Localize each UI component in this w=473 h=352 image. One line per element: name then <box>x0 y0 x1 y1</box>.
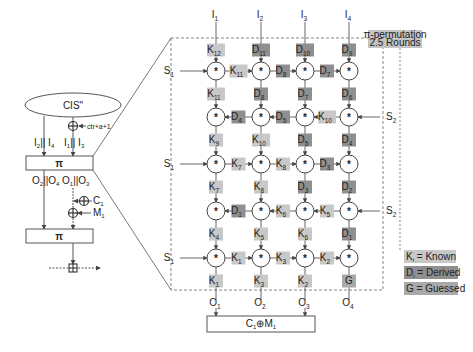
top-input-i1: I1 <box>212 9 219 22</box>
key-label-horizontal: K7 <box>231 158 245 171</box>
key-label-vertical: G <box>342 275 356 288</box>
star-operator-node: * <box>252 202 270 220</box>
svg-text:*: * <box>347 112 351 123</box>
star-operator-node: * <box>207 62 225 80</box>
key-label-vertical: D1 <box>342 228 356 241</box>
svg-text:*: * <box>259 159 263 170</box>
svg-text:*: * <box>214 253 218 264</box>
key-label-horizontal: D5 <box>276 111 290 124</box>
star-operator-node: * <box>296 155 314 173</box>
svg-text:*: * <box>303 66 307 77</box>
xor-ctr-icon <box>69 122 78 131</box>
key-label-vertical: K10 <box>252 134 270 147</box>
svg-text:*: * <box>347 206 351 217</box>
star-operator-node: * <box>296 62 314 80</box>
key-label-vertical: D10 <box>296 44 314 57</box>
key-label-vertical: D11 <box>252 44 270 57</box>
key-label-horizontal: D4 <box>231 111 245 124</box>
legend: Ki = KnownDi = DerivedG = Guessed <box>404 250 465 295</box>
key-label-vertical: K11 <box>207 88 225 101</box>
key-label-horizontal: K1 <box>231 252 245 265</box>
svg-text:*: * <box>259 66 263 77</box>
top-input-i2: I2 <box>257 9 264 22</box>
key-label-vertical: D9 <box>342 44 356 57</box>
svg-text:*: * <box>303 206 307 217</box>
key-label-vertical: D3 <box>298 181 312 194</box>
key-label-vertical: D5 <box>298 134 312 147</box>
legend-item-derived: Di = Derived <box>404 266 460 279</box>
key-label-vertical: K2 <box>298 275 312 288</box>
side-input-s1: S1 <box>164 252 175 265</box>
svg-text:π: π <box>55 158 63 169</box>
svg-text:*: * <box>214 159 218 170</box>
legend-item-guessed: G = Guessed <box>404 282 465 295</box>
key-label-horizontal: K3 <box>276 252 290 265</box>
key-label-horizontal: K5 <box>320 205 334 218</box>
key-label-horizontal: D7 <box>320 65 334 78</box>
output-box: C1⊕M1 <box>207 316 315 332</box>
zoom-line-bottom <box>93 170 171 290</box>
xor-m1-icon <box>69 209 78 218</box>
key-label-vertical: K9 <box>209 134 223 147</box>
bottom-output-o3: O3 <box>298 297 310 310</box>
svg-text:*: * <box>347 66 351 77</box>
star-operator-node: * <box>207 155 225 173</box>
svg-text:*: * <box>259 206 263 217</box>
output-o2-o4: O2||O4 <box>32 175 60 187</box>
bottom-output-o1: O1 <box>209 297 221 310</box>
svg-text:*: * <box>347 159 351 170</box>
key-label-horizontal: K11 <box>230 65 248 78</box>
svg-text:Di = Derived: Di = Derived <box>406 267 460 279</box>
svg-text:*: * <box>259 112 263 123</box>
m1-label: M1 <box>93 207 105 219</box>
key-label-vertical: D7 <box>298 88 312 101</box>
key-label-vertical: K3 <box>254 275 268 288</box>
key-label-vertical: K1 <box>209 275 223 288</box>
key-label-horizontal: D3 <box>320 158 334 171</box>
xor-c1-icon <box>80 197 89 206</box>
key-label-vertical: D4 <box>342 134 356 147</box>
svg-text:G = Guessed: G = Guessed <box>406 283 465 294</box>
svg-text:G: G <box>345 275 353 286</box>
input-i2-i4: I2|| I4 <box>34 137 55 149</box>
key-label-horizontal: K8 <box>276 158 290 171</box>
svg-text:*: * <box>303 159 307 170</box>
star-operator-node: * <box>207 202 225 220</box>
legend-item-known: Ki = Known <box>404 250 456 263</box>
key-label-horizontal: D8 <box>276 65 290 78</box>
key-label-vertical: D6 <box>342 88 356 101</box>
bottom-output-o4: O4 <box>342 297 354 310</box>
star-operator-node: * <box>340 108 358 126</box>
bottom-output-o2: O2 <box>254 297 266 310</box>
c1-label: C1 <box>93 195 104 207</box>
svg-text:*: * <box>214 112 218 123</box>
key-label-vertical: K8 <box>254 181 268 194</box>
boxed-plus-icon <box>69 264 77 272</box>
star-operator-node: * <box>340 62 358 80</box>
star-operator-node: * <box>340 202 358 220</box>
svg-text:*: * <box>347 253 351 264</box>
key-label-vertical: K4 <box>209 228 223 241</box>
svg-text:C1⊕M1: C1⊕M1 <box>246 318 277 330</box>
input-i1-i3: I1|| I3 <box>64 137 85 149</box>
key-label-vertical: K6 <box>298 228 312 241</box>
svg-text:*: * <box>214 206 218 217</box>
star-operator-node: * <box>207 108 225 126</box>
side-input-s1: S1 <box>164 65 175 78</box>
svg-text:*: * <box>303 112 307 123</box>
svg-text:*: * <box>259 253 263 264</box>
ctr-label: ctr+a+1 <box>87 123 111 130</box>
side-input-s1: S1 <box>164 158 175 171</box>
key-label-vertical: K12 <box>207 44 225 57</box>
right-panel: π-permutation 2.5 Rounds S1S2S1S2S1*****… <box>164 9 427 316</box>
star-operator-node: * <box>340 155 358 173</box>
star-operator-node: * <box>296 108 314 126</box>
output-o1-o3: O1||O3 <box>62 175 90 187</box>
svg-text:Ki = Known: Ki = Known <box>406 251 456 263</box>
key-label-vertical: K7 <box>209 181 223 194</box>
svg-text:*: * <box>214 66 218 77</box>
cis-label: CIS" <box>63 100 84 111</box>
title-line-2: 2.5 Rounds <box>369 37 420 48</box>
side-input-s2: S2 <box>386 205 397 218</box>
key-label-horizontal: K2 <box>320 252 334 265</box>
